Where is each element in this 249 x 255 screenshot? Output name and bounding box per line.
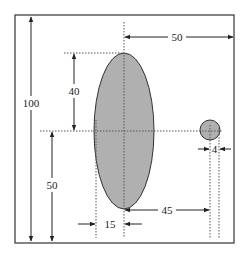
dimension-label-100: 100 [23,97,40,109]
dimension-label-40: 40 [69,85,81,97]
dimension-label-50-horizontal: 50 [172,31,184,43]
dimension-diagram: 100 40 50 50 45 15 4 [0,0,249,255]
dimension-label-45: 45 [162,204,174,216]
dimension-label-4: 4 [212,143,218,155]
dimension-label-15: 15 [105,218,117,230]
dimension-label-50-vertical: 50 [47,179,59,191]
